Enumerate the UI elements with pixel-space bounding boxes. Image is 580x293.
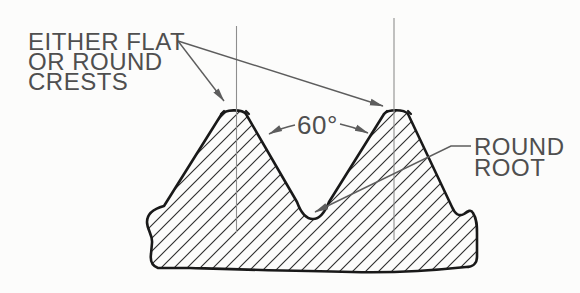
crest-note-line3: CRESTS xyxy=(28,68,128,95)
root-note-line2: ROOT xyxy=(474,154,545,181)
thread-profile-drawing: EITHER FLAT OR ROUND CRESTS 60° ROUND RO… xyxy=(0,0,580,293)
thread-profile-diagram: EITHER FLAT OR ROUND CRESTS 60° ROUND RO… xyxy=(0,0,580,293)
angle-dimension-label: 60° xyxy=(297,110,338,140)
